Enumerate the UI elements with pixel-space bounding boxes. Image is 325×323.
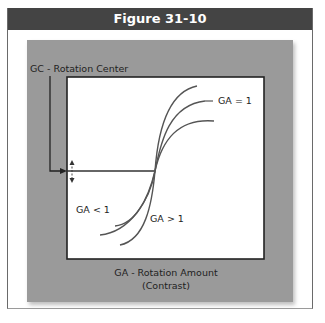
rotation-center-leader-line bbox=[50, 76, 64, 171]
label-ga-equal-1: GA = 1 bbox=[218, 95, 252, 106]
axis-label-contrast: (Contrast) bbox=[142, 280, 190, 291]
label-ga-less-than-1: GA < 1 bbox=[76, 204, 110, 215]
rotation-center-label: GC - Rotation Center bbox=[30, 63, 128, 74]
arrow-right-icon bbox=[60, 168, 67, 174]
label-ga-greater-than-1: GA > 1 bbox=[150, 213, 184, 224]
axis-label-rotation-amount: GA - Rotation Amount bbox=[114, 267, 218, 278]
diagram-svg: GC - Rotation Center GA = 1 GA < 1 GA > … bbox=[0, 0, 325, 323]
